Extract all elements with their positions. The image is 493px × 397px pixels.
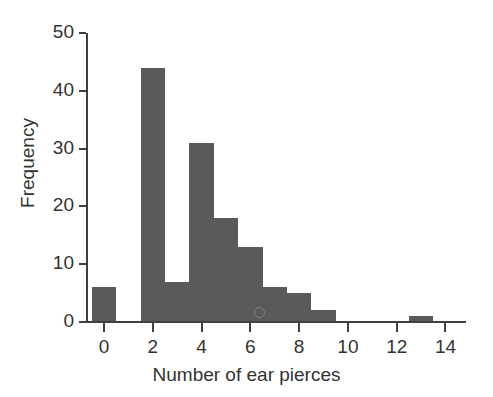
histogram-bar [165, 282, 189, 322]
y-tick-mark [79, 32, 86, 34]
x-tick-label: 10 [328, 336, 368, 358]
histogram-figure: 01020304050 02468101214 Number of ear pi… [0, 0, 493, 397]
scan-artifact [254, 307, 265, 318]
x-tick-label: 2 [133, 336, 173, 358]
x-tick-mark [152, 323, 154, 332]
y-tick-mark [79, 90, 86, 92]
x-tick-label: 6 [230, 336, 270, 358]
histogram-bar [92, 287, 116, 322]
y-tick-label: 50 [34, 21, 74, 43]
x-axis-spine [86, 321, 466, 323]
x-tick-label: 14 [425, 336, 465, 358]
x-tick-mark [249, 323, 251, 332]
y-tick-label: 30 [34, 137, 74, 159]
x-tick-label: 12 [377, 336, 417, 358]
histogram-bar [214, 218, 238, 322]
x-tick-mark [201, 323, 203, 332]
x-tick-mark [396, 323, 398, 332]
y-tick-label: 10 [34, 252, 74, 274]
x-axis-title: Number of ear pierces [0, 364, 493, 386]
y-axis-title: Frequency [17, 43, 39, 283]
x-tick-label: 8 [279, 336, 319, 358]
y-tick-mark [79, 321, 86, 323]
y-tick-label: 40 [34, 79, 74, 101]
y-axis-spine [86, 33, 88, 323]
x-tick-label: 0 [84, 336, 124, 358]
histogram-bar [141, 68, 165, 322]
x-tick-mark [444, 323, 446, 332]
y-tick-mark [79, 263, 86, 265]
histogram-bar [189, 143, 213, 322]
plot-area [87, 33, 465, 322]
y-tick-label: 0 [34, 310, 74, 332]
x-tick-mark [298, 323, 300, 332]
histogram-bar [263, 287, 287, 322]
x-tick-mark [347, 323, 349, 332]
histogram-bar [287, 293, 311, 322]
y-tick-mark [79, 148, 86, 150]
y-tick-mark [79, 205, 86, 207]
x-tick-mark [103, 323, 105, 332]
x-tick-label: 4 [182, 336, 222, 358]
y-tick-label: 20 [34, 194, 74, 216]
